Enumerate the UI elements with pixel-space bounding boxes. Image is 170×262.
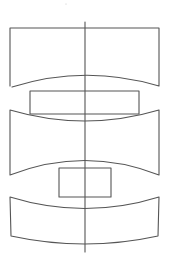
lens-stack-diagram <box>0 0 170 262</box>
diagram-canvas <box>0 0 170 262</box>
speck <box>66 4 67 5</box>
specks-group <box>66 4 67 5</box>
